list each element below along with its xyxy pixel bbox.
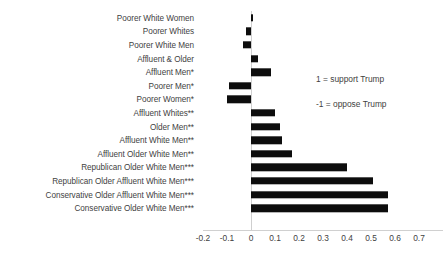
category-label: Conservative Older Affluent White Men*** (46, 190, 194, 199)
bar (251, 123, 280, 130)
chart-row: Affluent Older White Men** (0, 147, 443, 161)
x-axis-tick-labels: -0.2-0.100.10.20.30.40.50.60.7 (0, 232, 443, 248)
bar (251, 191, 388, 198)
x-tick-label: 0.3 (317, 232, 329, 244)
bar (251, 68, 271, 75)
x-tick-label: -0.2 (196, 232, 210, 244)
bar (251, 109, 275, 116)
x-axis-line (203, 230, 443, 231)
x-tick-label: 0 (249, 232, 254, 244)
category-label: Older Men** (150, 122, 194, 131)
category-label: Affluent Whites** (134, 108, 194, 117)
chart-row: Poorer Whites (0, 25, 443, 39)
chart-row: Conservative Older Affluent White Men*** (0, 188, 443, 202)
category-label: Affluent White Men** (120, 136, 194, 145)
x-tick-label: 0.2 (293, 232, 305, 244)
bar (229, 82, 251, 89)
category-label: Affluent Older White Men** (98, 149, 194, 158)
category-label: Poorer White Men (129, 40, 194, 49)
x-tick-label: 0.6 (389, 232, 401, 244)
category-label: Poorer White Women (117, 13, 194, 22)
category-label: Republican Older Affluent White Men*** (52, 176, 194, 185)
chart-row: Republican Older White Men*** (0, 161, 443, 175)
chart-row: Poorer White Men (0, 38, 443, 52)
x-tick-label: 0.7 (413, 232, 425, 244)
category-label: Poorer Whites (143, 27, 194, 36)
category-label: Poorer Women* (137, 95, 194, 104)
bar (251, 177, 373, 184)
bar (251, 204, 388, 211)
bar (251, 14, 253, 21)
bar (251, 150, 292, 157)
bar (251, 164, 347, 171)
annotation-oppose: -1 = oppose Trump (316, 99, 387, 110)
annotation-support: 1 = support Trump (316, 74, 384, 85)
chart-row: Affluent White Men** (0, 133, 443, 147)
chart-row: Affluent & Older (0, 52, 443, 66)
category-label: Affluent & Older (137, 54, 194, 63)
chart-row: Older Men** (0, 120, 443, 134)
chart-row: Poorer White Women (0, 11, 443, 25)
category-label: Affluent Men* (146, 68, 194, 77)
x-tick-label: -0.1 (220, 232, 234, 244)
chart-row: Conservative Older White Men*** (0, 201, 443, 215)
chart-row: Republican Older Affluent White Men*** (0, 174, 443, 188)
bar (251, 136, 282, 143)
bar (227, 96, 251, 103)
bar (246, 28, 251, 35)
x-tick-label: 0.5 (365, 232, 377, 244)
x-tick-label: 0.1 (269, 232, 281, 244)
category-label: Republican Older White Men*** (81, 163, 194, 172)
bar (251, 55, 258, 62)
category-label: Poorer Men* (149, 81, 194, 90)
bar (243, 41, 251, 48)
x-tick-label: 0.4 (341, 232, 353, 244)
category-label: Conservative Older White Men*** (75, 204, 195, 213)
chart-rows: Poorer White WomenPoorer WhitesPoorer Wh… (0, 11, 443, 229)
bar-chart: Poorer White WomenPoorer WhitesPoorer Wh… (0, 0, 443, 263)
